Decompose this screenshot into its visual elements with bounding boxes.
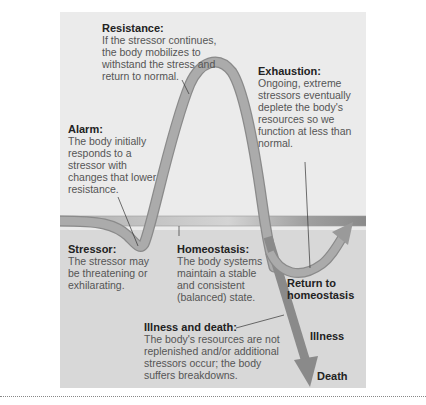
label-stressor: Stressor: The stressor may be threatenin… — [68, 243, 158, 291]
label-exhaustion: Exhaustion: Ongoing, extreme stressors e… — [258, 65, 358, 149]
diagram-panel: Resistance: If the stressor continues, t… — [60, 12, 366, 388]
label-resistance: Resistance: If the stressor continues, t… — [102, 22, 220, 82]
outcome-death: Death — [317, 370, 348, 382]
label-homeostasis: Homeostasis: The body systems maintain a… — [177, 243, 265, 303]
outcome-illness: Illness — [310, 330, 344, 342]
label-illness-death: Illness and death: The body's resources … — [144, 321, 290, 381]
death-arrow — [294, 356, 318, 387]
outcome-return: Return to homeostasis — [287, 277, 357, 301]
dotted-divider — [0, 396, 426, 397]
label-alarm: Alarm: The body initially responds to a … — [68, 123, 160, 195]
